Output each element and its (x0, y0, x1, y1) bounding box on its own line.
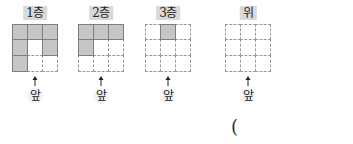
grid-cell-filled (78, 39, 94, 56)
floor-label: 2층 (89, 6, 113, 20)
front-label: 앞 (240, 88, 257, 104)
grid-cell-empty[interactable] (240, 24, 256, 41)
floor-grid (12, 24, 58, 71)
grid-cell-empty (78, 55, 94, 72)
grid-cell-empty (27, 39, 43, 56)
arrow-up-icon (31, 76, 39, 86)
view-label: 위 (240, 6, 257, 20)
grid-cell-empty[interactable] (225, 24, 241, 41)
grid-cell-empty[interactable] (225, 55, 241, 72)
arrow-up-icon (244, 76, 252, 86)
grid-cell-empty (160, 55, 176, 72)
grid-cell-empty (108, 39, 124, 56)
panel-floor-2: 2층 앞 (71, 0, 131, 108)
top-view-grid[interactable] (225, 24, 271, 71)
arrow-up-icon (164, 76, 172, 86)
grid-cell-empty[interactable] (255, 24, 271, 41)
grid-cell-empty (175, 24, 191, 41)
grid-cell-empty[interactable] (255, 55, 271, 72)
grid-cell-empty (175, 55, 191, 72)
grid-cell-filled (42, 39, 58, 56)
panel-top-view: 위 앞 (218, 0, 278, 108)
grid-cell-filled (93, 24, 109, 41)
floor-grid (145, 24, 191, 71)
grid-cell-filled (12, 24, 28, 41)
grid-cell-filled (160, 24, 176, 41)
grid-cell-empty (160, 39, 176, 56)
front-label: 앞 (160, 88, 177, 104)
grid-cell-filled (42, 24, 58, 41)
floor-label: 1층 (23, 6, 47, 20)
grid-cell-empty (145, 39, 161, 56)
grid-cell-empty (145, 24, 161, 41)
arrow-up-icon (97, 76, 105, 86)
grid-cell-empty[interactable] (255, 39, 271, 56)
grid-cell-empty (175, 39, 191, 56)
grid-cell-empty (93, 55, 109, 72)
grid-cell-empty[interactable] (240, 39, 256, 56)
grid-cell-filled (108, 24, 124, 41)
grid-cell-empty[interactable] (240, 55, 256, 72)
front-label: 앞 (93, 88, 110, 104)
grid-cell-empty (108, 55, 124, 72)
grid-cell-empty (27, 55, 43, 72)
panel-floor-3: 3층 앞 (138, 0, 198, 108)
grid-cell-filled (27, 24, 43, 41)
grid-cell-empty[interactable] (225, 39, 241, 56)
floor-label: 3층 (156, 6, 180, 20)
grid-cell-filled (12, 39, 28, 56)
grid-cell-empty (42, 55, 58, 72)
panel-floor-1: 1층 앞 (5, 0, 65, 108)
grid-cell-empty (145, 55, 161, 72)
grid-cell-empty (93, 39, 109, 56)
grid-cell-filled (78, 24, 94, 41)
floor-grid (78, 24, 124, 71)
answer-blank-paren[interactable]: ( (231, 116, 238, 137)
front-label: 앞 (27, 88, 44, 104)
grid-cell-filled (12, 55, 28, 72)
